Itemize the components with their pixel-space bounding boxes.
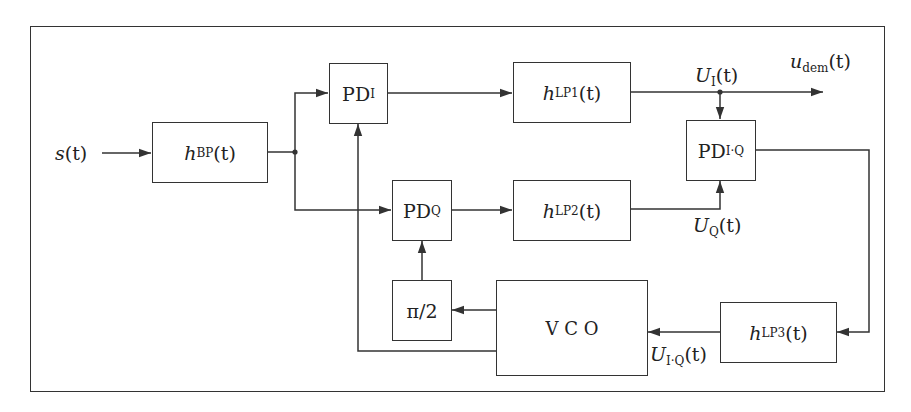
- phase-detector-iq-block: PDI·Q: [686, 120, 756, 181]
- lowpass-filter-3-block: hLP3(t): [720, 302, 837, 363]
- ui-signal-label: UI(t): [695, 66, 738, 88]
- input-signal-label: s(t): [55, 144, 87, 163]
- uiq-signal-label: UI·Q(t): [650, 345, 707, 367]
- block-diagram: s(t) hBP(t) PDI PDQ hLP1(t) hLP2(t) PDI·…: [0, 0, 911, 412]
- vco-block: V C O: [496, 280, 648, 376]
- output-signal-label: udem(t): [790, 52, 851, 74]
- uq-signal-label: UQ(t): [693, 216, 741, 238]
- phase-detector-i-block: PDI: [329, 63, 388, 124]
- lowpass-filter-2-block: hLP2(t): [513, 180, 631, 241]
- lowpass-filter-1-block: hLP1(t): [513, 62, 631, 123]
- phase-detector-q-block: PDQ: [392, 180, 452, 241]
- bandpass-filter-block: hBP(t): [152, 122, 268, 183]
- phase-shift-block: π/2: [392, 280, 452, 341]
